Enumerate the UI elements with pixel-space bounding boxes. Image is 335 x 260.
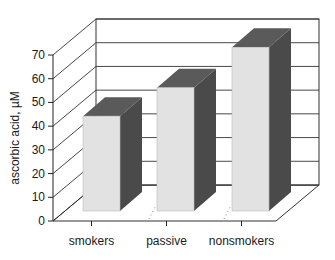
y-tick-label: 40 <box>32 119 46 133</box>
y-tick-label: 20 <box>32 167 46 181</box>
bar-front <box>83 116 120 211</box>
side-gridline <box>53 66 96 102</box>
y-tick-label: 30 <box>32 143 46 157</box>
bar-side <box>120 97 142 211</box>
bar-front <box>232 47 269 211</box>
x-tick-label: passive <box>146 234 187 248</box>
y-tick-label: 60 <box>32 72 46 86</box>
bar-side <box>194 69 216 211</box>
side-gridline <box>53 19 96 55</box>
y-tick-label: 70 <box>32 48 46 62</box>
y-tick-label: 50 <box>32 95 46 109</box>
y-tick-label: 0 <box>38 214 45 228</box>
x-tick-label: nonsmokers <box>209 234 274 248</box>
bar-nonsmokers <box>224 28 291 219</box>
y-tick-label: 10 <box>32 190 46 204</box>
y-axis: 010203040506070 <box>32 48 53 228</box>
bar-chart-3d: 010203040506070 smokerspassivenonsmokers… <box>0 0 335 260</box>
bar-front <box>157 88 194 211</box>
y-axis-title: ascorbic acid, µM <box>8 91 22 185</box>
bar-passive <box>149 69 216 219</box>
bar-side <box>269 28 291 211</box>
bar-smokers <box>83 97 142 211</box>
x-tick-label: smokers <box>69 234 114 248</box>
x-axis-labels: smokerspassivenonsmokers <box>69 221 274 248</box>
chart-canvas: 010203040506070 smokerspassivenonsmokers… <box>0 0 335 260</box>
side-gridline <box>53 43 96 79</box>
